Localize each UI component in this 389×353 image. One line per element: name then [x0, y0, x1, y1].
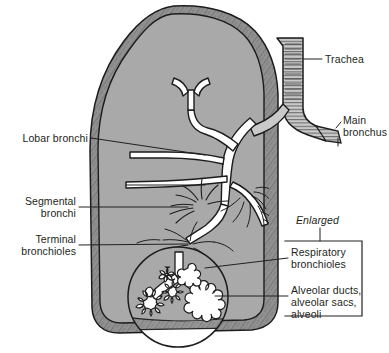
label-alveolar-line1: Alveolar ducts, — [291, 284, 361, 297]
upper-lobar-vertical — [188, 90, 194, 110]
label-alveolar-line2: alveolar sacs, — [291, 296, 357, 309]
respiratory-tract-figure: Trachea Main bronchus Lobar bronchi Segm… — [0, 0, 389, 353]
leader-main-bronchus — [336, 122, 341, 128]
label-alveolar-line3: alveoli — [291, 308, 321, 321]
label-terminal-bronchioles-line1: Terminal — [0, 233, 76, 246]
label-main-bronchus-line1: Main — [343, 114, 366, 127]
label-segmental-bronchi-line1: Segmental — [0, 195, 76, 208]
label-enlarged: Enlarged — [296, 214, 339, 227]
trachea-shape — [277, 38, 330, 141]
label-trachea: Trachea — [325, 53, 364, 66]
label-segmental-bronchi-line2: bronchi — [0, 207, 76, 220]
label-respiratory-bronchioles-line1: Respiratory — [291, 246, 346, 259]
label-main-bronchus-line2: bronchus — [343, 126, 387, 139]
label-lobar-bronchi: Lobar bronchi — [0, 132, 88, 145]
label-terminal-bronchioles-line2: bronchioles — [0, 245, 76, 258]
label-respiratory-bronchioles-line2: bronchioles — [291, 258, 346, 271]
